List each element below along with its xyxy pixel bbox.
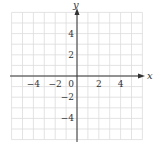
x-tick-labels: −4−2024 (27, 79, 124, 89)
x-tick-label: 2 (96, 79, 102, 89)
axes (10, 8, 145, 142)
coordinate-plane: x y −4−2024 42−2−4 (0, 0, 160, 149)
y-axis-label: y (72, 0, 79, 10)
x-axis-label: x (147, 70, 153, 81)
y-tick-label: −4 (61, 113, 75, 123)
x-axis-arrow-icon (138, 74, 145, 79)
x-tick-label: −4 (27, 79, 41, 89)
x-tick-label: 4 (118, 79, 124, 89)
y-tick-label: −2 (61, 92, 74, 102)
x-tick-label: 0 (68, 79, 74, 89)
y-tick-label: 2 (68, 50, 74, 60)
y-tick-label: 4 (68, 29, 74, 39)
x-tick-label: −2 (49, 79, 62, 89)
